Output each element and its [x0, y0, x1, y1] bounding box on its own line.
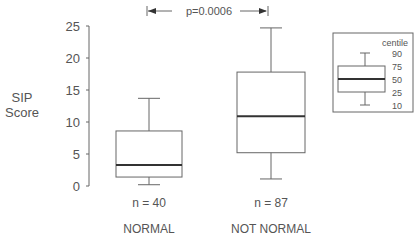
p-value-annotation: p=0.0006 — [147, 5, 268, 17]
p-value-label: p=0.0006 — [186, 5, 232, 17]
y-axis-label-line1: SIP — [12, 90, 33, 105]
box-iqr — [116, 131, 182, 177]
legend-title: centile — [382, 38, 408, 48]
legend-label-50: 50 — [392, 75, 402, 85]
legend-label-90: 90 — [392, 49, 402, 59]
legend-label-10: 10 — [392, 101, 402, 111]
y-tick-label: 25 — [66, 19, 80, 34]
y-tick-label: 0 — [73, 179, 80, 194]
sample-size-label: n = 40 — [132, 196, 166, 210]
box-iqr — [237, 72, 305, 153]
box-not-normal: n = 87NOT NORMAL — [231, 28, 311, 236]
box-plot-chart: 0510152025 SIP Score n = 40NORMALn = 87N… — [0, 0, 416, 245]
annotation-left-arrowhead — [148, 8, 156, 14]
sample-size-label: n = 87 — [254, 196, 288, 210]
category-label: NOT NORMAL — [231, 222, 311, 236]
category-label: NORMAL — [123, 222, 175, 236]
legend: centile 90 75 50 25 10 — [333, 33, 413, 112]
y-tick-label: 5 — [73, 147, 80, 162]
y-tick-label: 15 — [66, 83, 80, 98]
y-tick-label: 10 — [66, 115, 80, 130]
legend-label-25: 25 — [392, 88, 402, 98]
legend-label-75: 75 — [392, 62, 402, 72]
y-tick-label: 20 — [66, 51, 80, 66]
y-axis-label-line2: Score — [5, 105, 39, 120]
annotation-right-arrowhead — [259, 8, 267, 14]
box-normal: n = 40NORMAL — [116, 98, 182, 236]
